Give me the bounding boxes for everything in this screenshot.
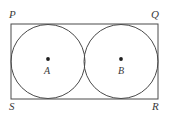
vertex-label-r: R <box>152 101 159 112</box>
center-dot-b <box>119 57 123 61</box>
vertex-label-s: S <box>9 101 15 112</box>
vertex-label-q: Q <box>151 9 159 20</box>
figure-canvas <box>0 0 170 122</box>
circle-center-label-a: A <box>44 66 50 76</box>
geometry-figure: P Q R S A B <box>0 0 170 122</box>
circle-b <box>84 25 158 99</box>
circle-center-label-b: B <box>118 66 124 76</box>
center-dot-a <box>46 57 50 61</box>
circle-a <box>11 25 85 99</box>
vertex-label-p: P <box>9 9 16 20</box>
